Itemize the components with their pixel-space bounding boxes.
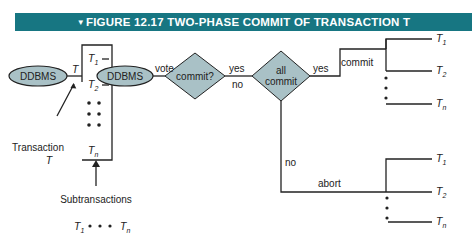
- edge-label-no-all: no: [285, 157, 297, 168]
- commit-output-t2: T2: [436, 64, 446, 78]
- annotation-subtransactions: Subtransactions: [60, 194, 132, 205]
- arrow-transaction: [57, 84, 74, 116]
- edge-label-no: no: [232, 79, 244, 90]
- sequence-dots: [88, 224, 111, 227]
- edge-label-yes-all: yes: [313, 63, 329, 74]
- abort-output-tn: Tn: [436, 215, 446, 229]
- all-commit-label-line2: commit: [265, 76, 297, 87]
- abort-output-t1: T1: [436, 152, 446, 166]
- two-phase-commit-diagram: DDBMS DDBMS commit? all commit T vote ye…: [0, 0, 472, 246]
- edge-label-abort: abort: [318, 178, 341, 189]
- edge-label-vote: vote: [155, 63, 174, 74]
- box-item-tn: Tn: [88, 144, 98, 158]
- box-item-t1: T1: [88, 52, 98, 66]
- annotation-sequence-end: Tn: [120, 220, 130, 234]
- commit-output-tn: Tn: [436, 97, 446, 111]
- commit-ellipsis-dots: [384, 76, 387, 99]
- abort-branch-t1: [386, 159, 432, 192]
- annotation-sequence-start: T1: [74, 220, 84, 234]
- abort-output-t2: T2: [436, 185, 446, 199]
- commit-decision-label: commit?: [176, 71, 214, 82]
- ddbms-right-label: DDBMS: [107, 71, 143, 82]
- edge-label-commit: commit: [341, 57, 373, 68]
- arrowhead-icon: [92, 160, 100, 167]
- arrowhead-icon: [69, 83, 76, 91]
- commit-branch-t1: [386, 39, 432, 49]
- box-ellipsis-dots: [87, 101, 101, 127]
- ddbms-left-label: DDBMS: [20, 71, 56, 82]
- all-commit-label-line1: all: [276, 65, 286, 76]
- commit-output-t1: T1: [436, 32, 446, 46]
- edge-label-yes: yes: [229, 63, 245, 74]
- abort-ellipsis-dots: [385, 196, 388, 219]
- annotation-transaction: Transaction: [12, 142, 64, 153]
- box-item-t2: T2: [88, 78, 98, 92]
- annotation-transaction-t: T: [46, 154, 54, 166]
- edge-label-t: T: [72, 63, 80, 75]
